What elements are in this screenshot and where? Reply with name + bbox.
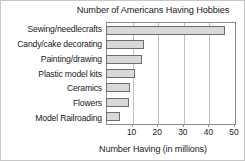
bar-row: [107, 23, 235, 37]
bar: [106, 26, 225, 35]
chart-title: Number of Americans Having Hobbies: [61, 5, 245, 15]
x-tick-label: 30: [178, 127, 187, 137]
category-label: Painting/drawing: [1, 51, 105, 66]
bar-row: [107, 81, 235, 95]
category-label: Candy/cake decorating: [1, 37, 105, 52]
x-tick-label: 50: [229, 127, 238, 137]
bar-row: [107, 95, 235, 109]
bar-chart-figure: Number of Americans Having Hobbies Sewin…: [0, 0, 245, 161]
category-label: Ceramics: [1, 81, 105, 96]
bar-row: [107, 37, 235, 51]
bar-row: [107, 52, 235, 66]
bar: [106, 98, 129, 107]
x-axis-label: Number Having (in millions): [61, 144, 245, 154]
plot-area: [106, 22, 236, 125]
category-label: Plastic model kits: [1, 66, 105, 81]
bar-row: [107, 66, 235, 80]
bar: [106, 55, 142, 64]
bar: [106, 112, 120, 121]
x-tick-label: 10: [127, 127, 136, 137]
category-axis: Sewing/needlecrafts Candy/cake decoratin…: [1, 22, 105, 125]
category-label: Model Railroading: [1, 110, 105, 125]
x-axis-ticks: 1020304050: [106, 125, 236, 136]
x-tick-label: 40: [204, 127, 213, 137]
bar: [106, 69, 135, 78]
bar: [106, 83, 130, 92]
category-label: Flowers: [1, 96, 105, 111]
bar-row: [107, 110, 235, 124]
bar: [106, 40, 144, 49]
x-tick-label: 20: [153, 127, 162, 137]
category-label: Sewing/needlecrafts: [1, 22, 105, 37]
bar-series: [107, 23, 235, 124]
